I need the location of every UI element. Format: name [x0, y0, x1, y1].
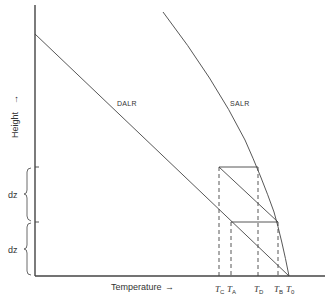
dalr-line: [35, 34, 289, 276]
label-td: TD: [254, 284, 264, 295]
label-tc: TC: [215, 284, 225, 295]
label-tb: TB: [274, 284, 283, 295]
dz-lower-label: dz: [8, 245, 18, 255]
brace-upper: [24, 168, 31, 221]
salr-label: SALR: [230, 100, 250, 107]
label-ta: TA: [227, 284, 236, 295]
y-axis-label: Height: [10, 111, 20, 138]
x-axis-label: Temperature: [111, 282, 162, 292]
salr-curve: [163, 12, 289, 276]
lapse-rate-diagram: DALR SALR dz dz Height → Temperature → T…: [0, 0, 334, 300]
y-axis-arrow: →: [10, 95, 20, 104]
dz-upper-label: dz: [8, 190, 18, 200]
brace-lower: [24, 223, 31, 275]
label-t0: T0: [286, 284, 295, 295]
parallel-dalr-segment: [219, 167, 278, 222]
x-axis-arrow: →: [165, 282, 174, 292]
dalr-label: DALR: [117, 100, 137, 107]
